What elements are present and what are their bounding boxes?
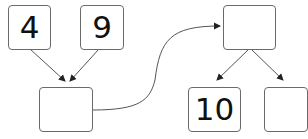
arrow-to-bottom-middle: [217, 49, 249, 80]
number-box-top-left: 4: [8, 5, 51, 50]
number-bond-diagram: 4 9 10: [0, 0, 308, 139]
number-box-top-right: [223, 5, 276, 50]
number-box-sum: [39, 87, 93, 132]
arrow-to-bottom-right: [251, 49, 283, 80]
arrow-4-to-sum: [30, 49, 65, 81]
arrow-9-to-sum: [70, 49, 99, 81]
number-box-bottom-middle: 10: [188, 87, 241, 132]
number-box-top-middle: 9: [80, 5, 124, 50]
number-box-bottom-right: [264, 87, 308, 132]
